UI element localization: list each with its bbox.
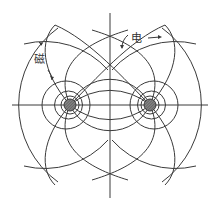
arrow-icon xyxy=(120,45,124,49)
magnetic-label: 磁 xyxy=(34,54,45,65)
electric-label: 电 xyxy=(131,33,142,44)
right-conductor xyxy=(144,99,156,111)
arrow-icon xyxy=(50,76,54,80)
arrow-icon xyxy=(158,35,162,39)
field-lines-diagram xyxy=(0,0,221,208)
left-conductor xyxy=(64,99,76,111)
